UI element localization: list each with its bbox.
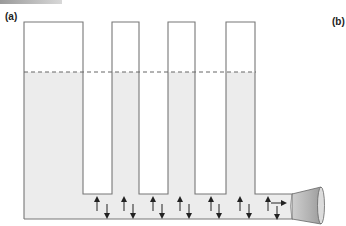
fluid-region [24,72,293,219]
outlet-funnel [291,187,325,224]
manometer-diagram [0,0,346,226]
